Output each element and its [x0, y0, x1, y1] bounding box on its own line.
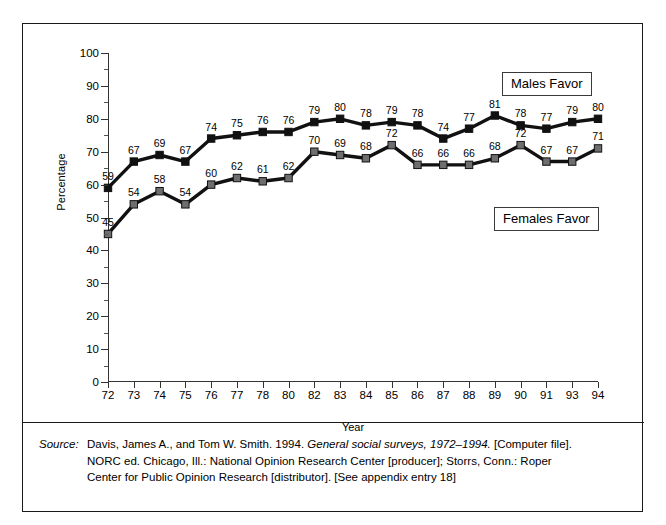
- x-tick: [340, 382, 341, 388]
- y-tick-label: 10: [86, 343, 99, 355]
- x-tick-label: 76: [205, 389, 218, 401]
- x-tick-label: 73: [127, 389, 140, 401]
- data-point-marker: [130, 158, 137, 165]
- data-point-marker: [207, 181, 214, 188]
- data-point-marker: [594, 145, 601, 152]
- x-tick-label: 77: [231, 389, 244, 401]
- source-label: Source:: [39, 436, 87, 453]
- y-tick: [101, 86, 108, 87]
- data-point-marker: [259, 128, 266, 135]
- data-point-marker: [130, 201, 137, 208]
- data-point-marker: [362, 122, 369, 129]
- data-point-marker: [517, 141, 524, 148]
- data-point-label: 76: [257, 114, 269, 125]
- data-point-marker: [233, 174, 240, 181]
- x-tick-label: 86: [411, 389, 424, 401]
- y-tick: [101, 53, 108, 54]
- data-point-label: 81: [489, 98, 501, 109]
- data-point-marker: [182, 201, 189, 208]
- source-line-3: Center for Public Opinion Research [dist…: [39, 469, 631, 486]
- y-tick-label: 0: [93, 376, 99, 388]
- data-point-marker: [285, 174, 292, 181]
- data-point-label: 80: [592, 101, 604, 112]
- source-divider: [23, 422, 644, 423]
- x-tick: [263, 382, 264, 388]
- data-point-marker: [491, 112, 498, 119]
- y-tick-label: 60: [86, 179, 99, 191]
- data-point-marker: [440, 135, 447, 142]
- x-tick: [495, 382, 496, 388]
- y-axis-title: Percentage: [55, 112, 75, 252]
- y-tick-label: 90: [86, 80, 99, 92]
- data-point-label: 54: [128, 187, 140, 198]
- data-point-label: 77: [541, 111, 553, 122]
- data-point-label: 79: [386, 105, 398, 116]
- data-point-marker: [543, 158, 550, 165]
- y-tick-label: 40: [86, 244, 99, 256]
- y-tick-label: 80: [86, 113, 99, 125]
- data-point-label: 74: [205, 121, 217, 132]
- data-point-label: 78: [360, 108, 372, 119]
- data-point-marker: [362, 155, 369, 162]
- data-point-label: 72: [386, 128, 398, 139]
- x-tick-label: 82: [308, 389, 321, 401]
- data-point-marker: [569, 158, 576, 165]
- data-point-label: 67: [128, 144, 140, 155]
- data-point-label: 78: [515, 108, 527, 119]
- chart-frame: Percentage 01020304050607080901007273747…: [22, 23, 643, 512]
- data-point-label: 62: [283, 161, 295, 172]
- y-tick-label: 100: [80, 47, 99, 59]
- y-tick-label: 70: [86, 146, 99, 158]
- x-tick-label: 85: [385, 389, 398, 401]
- source-line-1-italic: General social surveys, 1972–1994.: [307, 438, 490, 450]
- data-point-label: 68: [360, 141, 372, 152]
- y-tick-minor: [104, 267, 108, 268]
- legend-label-males: Males Favor: [502, 72, 592, 96]
- source-line-1b: [Computer file].: [491, 438, 572, 450]
- x-tick-label: 72: [102, 389, 115, 401]
- data-point-marker: [594, 115, 601, 122]
- y-tick-label: 20: [86, 310, 99, 322]
- data-point-marker: [156, 187, 163, 194]
- x-tick: [108, 382, 109, 388]
- y-tick-label: 30: [86, 277, 99, 289]
- x-tick-label: 93: [566, 389, 579, 401]
- y-tick-minor: [104, 234, 108, 235]
- data-point-marker: [388, 118, 395, 125]
- data-point-label: 67: [541, 144, 553, 155]
- figure-panel: Percentage 01020304050607080901007273747…: [0, 0, 666, 525]
- data-point-marker: [285, 128, 292, 135]
- x-tick: [211, 382, 212, 388]
- data-point-label: 66: [437, 147, 449, 158]
- x-tick: [392, 382, 393, 388]
- data-point-label: 68: [489, 141, 501, 152]
- data-point-label: 60: [205, 167, 217, 178]
- x-tick-label: 84: [359, 389, 372, 401]
- data-point-label: 66: [463, 147, 475, 158]
- data-point-label: 75: [231, 118, 243, 129]
- y-tick-label: 50: [86, 212, 99, 224]
- data-point-marker: [569, 118, 576, 125]
- data-point-marker: [465, 125, 472, 132]
- x-tick-label: 87: [437, 389, 450, 401]
- data-point-marker: [336, 115, 343, 122]
- x-tick: [521, 382, 522, 388]
- y-tick-minor: [104, 333, 108, 334]
- data-point-label: 45: [102, 216, 114, 227]
- x-tick: [572, 382, 573, 388]
- data-point-label: 74: [437, 121, 449, 132]
- y-tick-minor: [104, 135, 108, 136]
- x-tick: [546, 382, 547, 388]
- x-tick: [443, 382, 444, 388]
- data-point-label: 58: [154, 174, 166, 185]
- y-tick: [101, 152, 108, 153]
- y-tick: [101, 185, 108, 186]
- data-point-label: 72: [515, 128, 527, 139]
- data-point-marker: [543, 125, 550, 132]
- data-point-label: 78: [412, 108, 424, 119]
- data-point-label: 67: [180, 144, 192, 155]
- y-tick: [101, 283, 108, 284]
- y-tick: [101, 316, 108, 317]
- data-point-label: 69: [154, 137, 166, 148]
- x-tick: [417, 382, 418, 388]
